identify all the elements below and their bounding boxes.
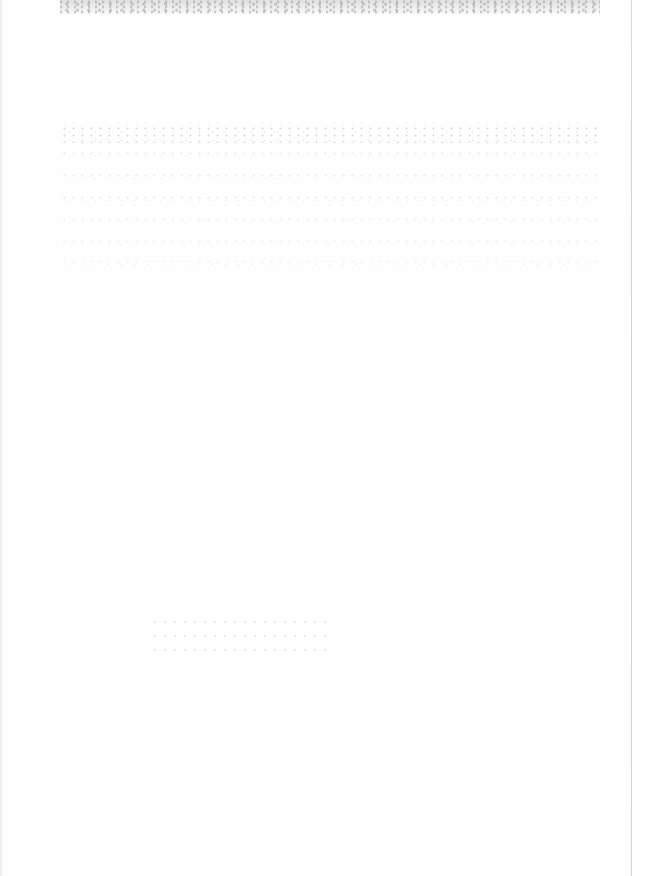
scanned-page: [0, 0, 648, 876]
faded-text-line: [60, 194, 600, 202]
faded-text-line: [60, 150, 600, 158]
faded-text-line: [60, 238, 600, 246]
faded-text-line: [60, 216, 600, 224]
faded-heading: [68, 28, 128, 48]
faded-text-fragment: [150, 615, 330, 655]
page-left-edge: [0, 0, 3, 876]
faded-text-line: [60, 172, 600, 180]
faded-text-block: [60, 125, 600, 143]
scan-noise-band: [60, 0, 600, 14]
faded-text-line: [60, 125, 600, 133]
faded-text-line: [60, 258, 600, 266]
page-right-edge: [631, 0, 632, 876]
